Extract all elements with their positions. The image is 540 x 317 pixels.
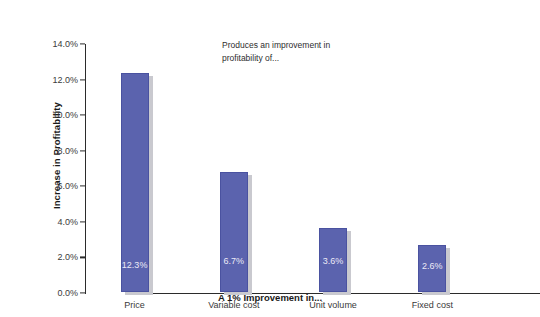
bar-rect — [220, 172, 248, 291]
bar: 2.6% — [418, 245, 452, 291]
bar-value-label: 6.7% — [220, 256, 248, 266]
y-axis-tickmark — [80, 257, 85, 258]
y-axis-tickmark — [80, 221, 85, 222]
y-axis-tickmark — [80, 186, 85, 187]
y-axis-tickmark — [80, 115, 85, 116]
bar-value-label: 2.6% — [418, 261, 446, 271]
y-axis-tickmark — [80, 150, 85, 151]
bar: 6.7% — [220, 172, 254, 291]
bar: 12.3% — [121, 73, 155, 292]
bar-value-label: 12.3% — [121, 260, 149, 270]
chart-annotation: Produces an improvement in profitability… — [222, 39, 330, 65]
x-axis-title: A 1% Improvement in... — [85, 292, 455, 303]
bar: 3.6% — [319, 228, 353, 292]
y-axis-tickmark — [80, 43, 85, 44]
y-axis-line — [85, 44, 86, 294]
y-axis-tickmark — [80, 79, 85, 80]
bar-value-label: 3.6% — [319, 256, 347, 266]
